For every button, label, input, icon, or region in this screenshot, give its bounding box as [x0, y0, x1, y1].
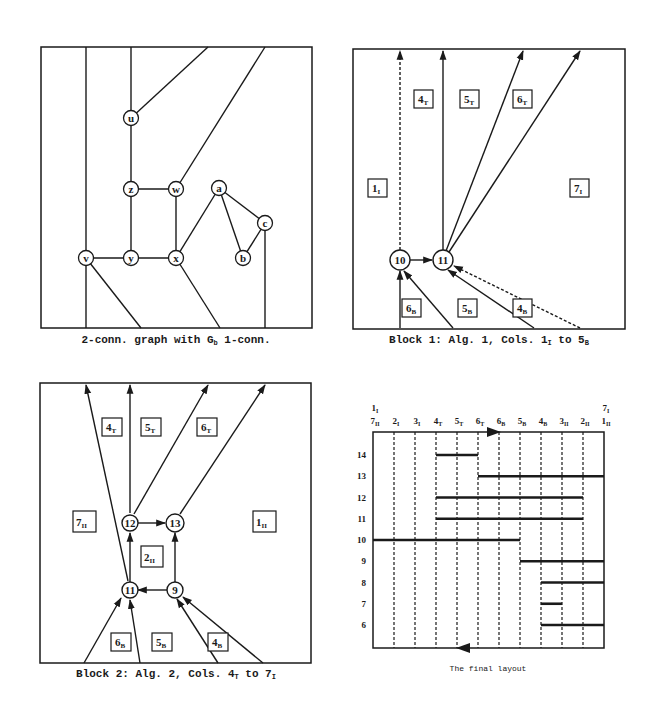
bottom-arrow-icon	[456, 643, 470, 653]
face-4B: 4B	[208, 633, 228, 651]
column-label-7II: 7II	[370, 416, 380, 427]
node-10: 10	[390, 250, 410, 270]
layout-segments	[373, 455, 604, 625]
caption-block2: Block 2: Alg. 2, Cols. 4T to 7I	[76, 668, 276, 681]
column-label-2II: 2II	[580, 416, 590, 427]
svg-text:a: a	[216, 182, 222, 194]
node-w: w	[169, 182, 184, 197]
panel-block2: 12 13 11 9 4T 5T 6T 7II 1II 2II 6B 5B 4B…	[40, 383, 311, 681]
face-4T: 4T	[102, 418, 122, 436]
panel-block1: 10 11 4T 5T 6T 1I 7I 6B 5B 4B Block 1: A…	[353, 49, 625, 347]
block1-face-labels: 4T 5T 6T 1I 7I 6B 5B 4B	[368, 90, 589, 317]
svg-text:y: y	[128, 252, 134, 264]
row-label-14: 14	[357, 450, 367, 460]
layout-column-labels: 7II2I3I4T5T6T6B5B4B3II2II1II1I7I	[370, 403, 611, 427]
row-label-12: 12	[357, 493, 367, 503]
node-9: 9	[167, 582, 183, 598]
column-label-top-7I: 7I	[603, 403, 611, 414]
face-5T: 5T	[141, 418, 161, 436]
row-label-9: 9	[362, 556, 367, 566]
column-label-5B: 5B	[518, 416, 527, 427]
svg-text:10: 10	[395, 254, 407, 266]
row-label-6: 6	[362, 620, 367, 630]
face-6B: 6B	[402, 299, 421, 317]
node-c: c	[258, 216, 273, 231]
column-label-6B: 6B	[497, 416, 506, 427]
face-6T: 6T	[197, 418, 217, 436]
svg-text:11: 11	[125, 584, 135, 596]
face-7II: 7II	[73, 511, 96, 532]
column-label-3I: 3I	[414, 416, 422, 427]
face-5T: 5T	[460, 90, 479, 108]
row-label-13: 13	[357, 471, 367, 481]
face-6T: 6T	[513, 90, 532, 108]
panel-layout: 7II2I3I4T5T6T6B5B4B3II2II1II1I7I 1413121…	[357, 403, 611, 673]
layout-row-labels: 14131211109876	[357, 450, 367, 630]
column-label-top-1I: 1I	[372, 403, 380, 414]
svg-text:11: 11	[438, 254, 448, 266]
caption-block1: Block 1: Alg. 1, Cols. 1I to 5B	[389, 334, 590, 347]
svg-text:z: z	[129, 183, 134, 195]
svg-text:13: 13	[170, 517, 182, 529]
column-label-4T: 4T	[434, 416, 443, 427]
face-6B: 6B	[111, 633, 131, 651]
column-label-6T: 6T	[476, 416, 485, 427]
node-y: y	[124, 251, 139, 266]
row-label-7: 7	[362, 599, 367, 609]
top-arrow-icon	[487, 427, 501, 437]
caption-layout: The final layout	[450, 664, 527, 673]
svg-text:u: u	[128, 112, 134, 124]
column-label-5T: 5T	[455, 416, 464, 427]
row-label-10: 10	[357, 535, 367, 545]
node-13: 13	[166, 514, 184, 532]
node-u: u	[124, 111, 139, 126]
svg-text:12: 12	[125, 517, 137, 529]
face-2II: 2II	[141, 546, 163, 567]
svg-text:b: b	[240, 252, 246, 264]
node-v: v	[79, 251, 94, 266]
face-1II: 1II	[253, 511, 276, 532]
caption-graph: 2-conn. graph with Gb 1-conn.	[81, 334, 270, 347]
svg-text:c: c	[263, 217, 268, 229]
row-label-11: 11	[357, 514, 366, 524]
face-4B: 4B	[513, 299, 532, 317]
svg-text:9: 9	[172, 584, 178, 596]
face-1I: 1I	[368, 179, 387, 197]
svg-text:v: v	[83, 252, 89, 264]
column-label-1II: 1II	[601, 416, 611, 427]
node-11: 11	[122, 582, 138, 598]
column-label-3II: 3II	[559, 416, 569, 427]
svg-text:x: x	[173, 252, 179, 264]
svg-text:w: w	[172, 183, 180, 195]
figure-canvas: u z w a c v y x b 2-conn. graph with Gb …	[0, 0, 653, 723]
node-x: x	[169, 251, 184, 266]
face-4T: 4T	[414, 90, 433, 108]
node-11: 11	[433, 250, 453, 270]
node-a: a	[212, 181, 227, 196]
node-12: 12	[122, 515, 138, 531]
face-5B: 5B	[458, 299, 477, 317]
panel-graph: u z w a c v y x b 2-conn. graph with Gb …	[41, 47, 312, 347]
row-label-8: 8	[362, 578, 367, 588]
column-label-2I: 2I	[393, 416, 401, 427]
face-7I: 7I	[570, 179, 589, 197]
node-b: b	[236, 251, 251, 266]
face-5B: 5B	[152, 633, 172, 651]
column-label-4B: 4B	[539, 416, 548, 427]
node-z: z	[124, 182, 139, 197]
